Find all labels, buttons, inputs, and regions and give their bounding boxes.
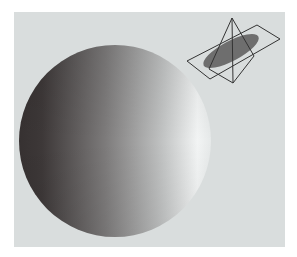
figure-canvas — [0, 0, 297, 257]
inset-diagram — [187, 18, 280, 83]
sphere — [19, 45, 211, 237]
